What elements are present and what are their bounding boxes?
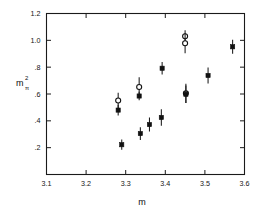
data-point: [138, 127, 142, 140]
marker-square-filled: [184, 92, 188, 96]
marker-square-filled: [120, 143, 124, 147]
marker-square-filled: [147, 122, 151, 126]
chart-figure: .2.4.6.81.01.2 3.13.23.33.43.53.6 m 2 π …: [0, 0, 262, 219]
scatter-plot-canvas: .2.4.6.81.01.2 3.13.23.33.43.53.6 m 2 π …: [0, 0, 262, 219]
y-axis-label-base: m: [16, 78, 24, 88]
y-tick-label: 1.2: [31, 9, 41, 18]
y-tick-label: .8: [35, 63, 41, 72]
marker-square-filled: [160, 66, 164, 70]
data-point: [147, 118, 151, 132]
data-point: [120, 140, 124, 150]
x-tick-label: 3.5: [200, 179, 210, 188]
x-tick-label: 3.4: [160, 179, 170, 188]
y-tick-label: .4: [35, 116, 41, 125]
y-axis-tick-labels: .2.4.6.81.01.2: [31, 9, 41, 152]
y-tick-label: .6: [35, 90, 41, 99]
data-point: [159, 109, 163, 126]
x-axis-label: m: [138, 197, 146, 207]
marker-square-filled: [138, 131, 142, 135]
data-points-layer: [116, 30, 235, 150]
data-point: [184, 86, 188, 103]
y-axis-label-subscript: π: [25, 85, 29, 91]
x-axis-tick-labels: 3.13.23.33.43.53.6: [42, 179, 250, 188]
y-axis-label-superscript: 2: [25, 75, 29, 81]
x-tick-label: 3.3: [121, 179, 131, 188]
x-tick-label: 3.1: [42, 179, 52, 188]
data-point: [160, 62, 164, 75]
marker-circle-open: [116, 98, 121, 103]
marker-square-filled: [159, 115, 163, 119]
data-point: [231, 40, 235, 54]
x-axis-ticks: [47, 14, 245, 175]
marker-circle-open: [137, 85, 142, 90]
y-axis-label: m 2 π: [16, 75, 29, 91]
data-point: [137, 92, 141, 101]
marker-square-filled: [231, 45, 235, 49]
y-tick-label: 1.0: [31, 36, 41, 45]
y-axis-ticks: [47, 14, 245, 148]
marker-square-filled: [116, 108, 120, 112]
x-tick-label: 3.6: [240, 179, 250, 188]
marker-square-filled: [137, 94, 141, 98]
y-tick-label: .2: [35, 143, 41, 152]
marker-square-filled: [206, 73, 210, 77]
x-tick-label: 3.2: [81, 179, 91, 188]
data-point: [116, 105, 120, 116]
data-point: [206, 67, 210, 83]
plot-frame: [47, 14, 245, 175]
marker-circle-open: [183, 41, 188, 46]
